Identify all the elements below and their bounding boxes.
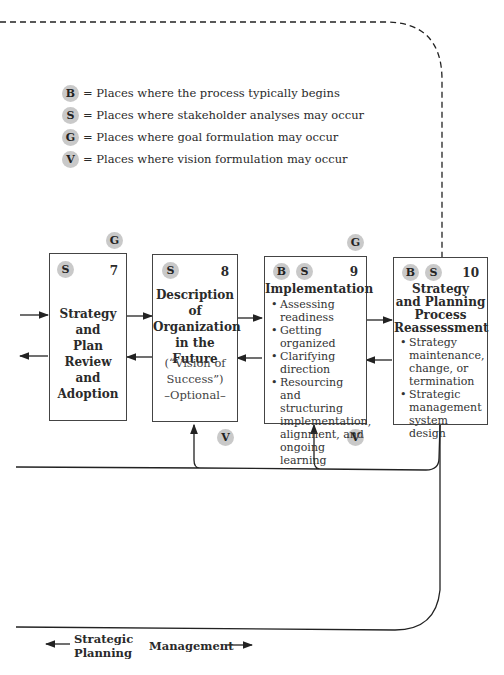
step-7-box[interactable]: S 7 StrategyandPlan ReviewandAdoption [49,253,127,421]
stakeholder-badge-icon: S [162,262,179,279]
bullet-item: Resourcing and structuring implementatio… [270,376,366,467]
step-10-box[interactable]: B S 10 Strategyand PlanningProcessReasse… [393,257,488,425]
stakeholder-badge-icon: S [296,263,313,280]
s-badge-icon: S [62,107,79,124]
goal-badge-icon: G [106,232,123,249]
begins-badge-icon: B [402,264,419,281]
step-8-box[interactable]: S 8 DescriptionofOrganizationin the Futu… [152,254,238,422]
bullet-item: Strategic management system design [399,388,487,440]
management-label: Management [149,639,234,653]
b-badge-icon: B [62,85,79,102]
step-title: Strategyand PlanningProcessReassessment [394,283,487,335]
v-badge-icon: V [62,151,79,168]
strategic-planning-label: StrategicPlanning [74,632,133,660]
step-number: 9 [350,265,358,279]
step-title: Implementation [265,281,366,297]
vision-badge-icon: V [217,429,234,446]
bullet-item: Getting organized [270,324,366,350]
begins-badge-icon: B [273,263,290,280]
bullet-item: Clarifying direction [270,350,366,376]
step-bullets: Strategy maintenance, change, or termina… [399,336,487,440]
legend-goal: G= Places where goal formulation may occ… [62,129,338,146]
legend-stakeholder: S= Places where stakeholder analyses may… [62,107,364,124]
step-number: 7 [110,264,118,278]
step-number: 10 [462,266,479,280]
goal-badge-icon: G [347,234,364,251]
step-number: 8 [221,265,229,279]
step-subtitle: (“Vision ofSuccess”)–Optional– [153,355,237,403]
g-badge-icon: G [62,129,79,146]
step-bullets: Assessing readiness Getting organized Cl… [270,298,366,467]
step-9-box[interactable]: B S 9 Implementation Assessing readiness… [264,256,367,424]
stakeholder-badge-icon: S [57,261,74,278]
bullet-item: Strategy maintenance, change, or termina… [399,336,487,388]
stakeholder-badge-icon: S [425,264,442,281]
step-title: StrategyandPlan ReviewandAdoption [50,306,126,402]
legend-begins: B= Places where the process typically be… [62,85,340,102]
legend-vision: V= Places where vision formulation may o… [62,151,348,168]
bullet-item: Assessing readiness [270,298,366,324]
